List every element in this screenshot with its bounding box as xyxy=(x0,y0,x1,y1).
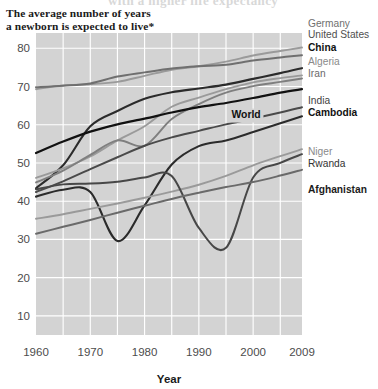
series-label-germany: Germany xyxy=(308,18,351,29)
series-label-niger: Niger xyxy=(308,146,333,157)
life-expectancy-chart: with a higher life expectancy The averag… xyxy=(0,0,378,389)
y-axis-tick-labels: 8070605040302010 xyxy=(17,42,30,322)
series-label-algeria: Algeria xyxy=(308,56,340,67)
y-tick-label-10: 10 xyxy=(17,310,30,322)
series-label-world: World xyxy=(231,109,260,120)
series-label-afghanistan: Afghanistan xyxy=(308,184,367,195)
y-tick-label-40: 40 xyxy=(17,195,30,207)
y-tick-label-70: 70 xyxy=(17,81,30,93)
y-tick-label-60: 60 xyxy=(17,119,30,131)
x-tick-label-1960: 1960 xyxy=(23,346,49,358)
series-label-rwanda: Rwanda xyxy=(308,158,346,169)
plot-svg: 8070605040302010 19601970198019902000200… xyxy=(0,0,378,389)
y-tick-label-80: 80 xyxy=(17,42,30,54)
x-axis-tick-labels: 196019701980199020002009 xyxy=(23,346,315,358)
series-label-united-states: United States xyxy=(308,29,369,40)
x-tick-label-2009: 2009 xyxy=(289,346,315,358)
series-label-china: China xyxy=(308,42,337,53)
series-label-india: India xyxy=(308,95,330,106)
series-label-iran: Iran xyxy=(308,68,326,79)
x-tick-label-1980: 1980 xyxy=(132,346,158,358)
x-axis-title: Year xyxy=(157,373,182,385)
series-label-cambodia: Cambodia xyxy=(308,107,358,118)
y-tick-label-50: 50 xyxy=(17,157,30,169)
x-tick-label-1990: 1990 xyxy=(186,346,212,358)
x-tick-label-2000: 2000 xyxy=(240,346,266,358)
x-tick-label-1970: 1970 xyxy=(77,346,103,358)
y-tick-label-20: 20 xyxy=(17,272,30,284)
y-tick-label-30: 30 xyxy=(17,233,30,245)
